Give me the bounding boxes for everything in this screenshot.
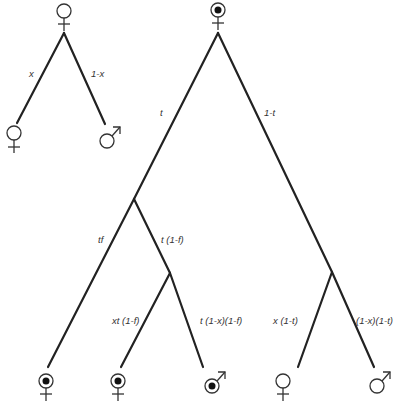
edge-x	[17, 33, 64, 123]
label-x: x	[28, 68, 35, 79]
male-icon	[100, 127, 120, 148]
male-marked-icon	[205, 372, 225, 393]
female-marked-icon	[39, 374, 53, 401]
label-1-x: 1-x	[91, 68, 105, 79]
female-icon	[57, 4, 71, 31]
female-marked-icon	[211, 3, 225, 30]
female-icon	[276, 374, 290, 401]
label-t: t	[160, 107, 163, 118]
label-1-t: 1-t	[264, 107, 275, 118]
label-xt-1-f: xt (1-f)	[111, 315, 139, 326]
label-t-1-x-1-f: t (1-x)(1-f)	[200, 315, 242, 326]
label-1-x-1-t: (1-x)(1-t)	[356, 315, 393, 326]
probability-tree-diagram: x 1-x t 1-t tf t (1-f)	[0, 0, 411, 410]
female-icon	[7, 126, 21, 153]
label-x-1-t: x (1-t)	[272, 315, 298, 326]
female-marked-icon	[111, 374, 125, 401]
left-tree: x 1-x	[7, 4, 120, 153]
label-t-1-f: t (1-f)	[161, 234, 184, 245]
label-tf: tf	[98, 234, 105, 245]
male-icon	[370, 372, 390, 393]
main-tree: t 1-t tf t (1-f) xt (1-f) t (1-x)(1-f) x…	[39, 3, 393, 401]
